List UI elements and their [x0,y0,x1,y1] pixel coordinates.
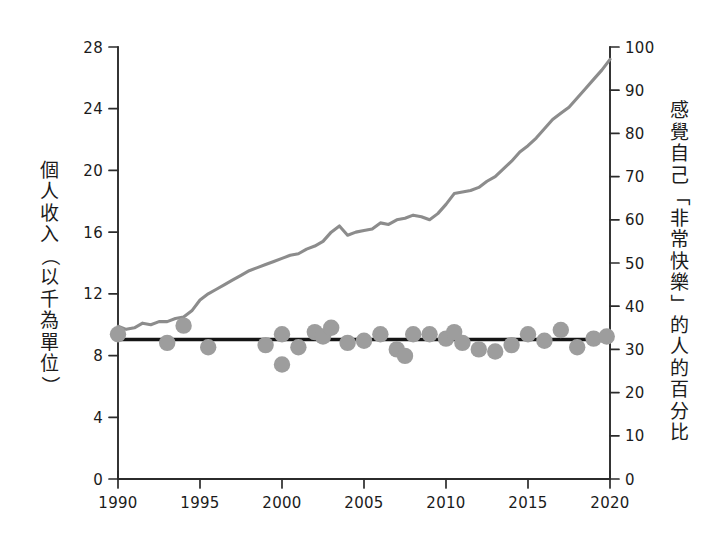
left-tick-label: 8 [93,347,103,365]
x-tick-label: 2005 [344,494,383,512]
happiness-data-point [290,339,306,355]
axis-title-char: 的 [670,315,689,336]
happiness-data-point [159,335,175,351]
right-tick-label: 20 [625,384,645,402]
axis-title-char: 「 [670,186,689,207]
axis-title-char: 己 [670,165,689,186]
happiness-data-point [323,320,339,336]
axis-title-char: 」 [670,293,689,314]
axis-title-char: 分 [670,401,689,422]
happiness-data-point [553,322,569,338]
axis-title-char: 位 [40,353,59,374]
plot-area [110,59,615,372]
axis-title-char: 單 [40,332,59,353]
axis-title-char: 以 [40,267,59,288]
happiness-data-point [200,339,216,355]
right-tick-label: 90 [625,82,645,100]
right-tick-label: 0 [625,471,635,489]
axis-title-char: 千 [40,289,59,310]
happiness-data-point [257,337,273,353]
right-axis-tick-labels: 0102030405060708090100 [625,39,655,489]
right-axis-title: 感覺自己「非常快樂」的人的百分比 [664,52,694,492]
happiness-data-point [487,343,503,359]
x-axis-group: 1990199520002005201020152020 [98,471,629,512]
axis-title-char: （ [40,246,59,267]
happiness-scatter-series [110,317,615,372]
axis-title-char: 自 [670,143,689,164]
left-tick-label: 24 [83,100,103,118]
axis-title-char: 的 [670,358,689,379]
left-tick-label: 12 [83,285,103,303]
x-tick-label: 2020 [590,494,629,512]
happiness-data-point [599,328,615,344]
happiness-data-point [503,337,519,353]
axis-title-char: 個 [40,160,59,181]
axis-title-char: 覺 [670,122,689,143]
right-tick-label: 40 [625,298,645,316]
right-tick-label: 70 [625,168,645,186]
right-tick-label: 80 [625,125,645,143]
x-tick-label: 1990 [98,494,137,512]
axis-title-char: 快 [670,251,689,272]
happiness-data-point [421,326,437,342]
axis-title-char: 為 [40,310,59,331]
left-tick-label: 4 [93,409,103,427]
right-tick-label: 50 [625,255,645,273]
right-tick-label: 100 [625,39,655,57]
axis-title-char: 入 [40,224,59,245]
happiness-data-point [569,339,585,355]
happiness-data-point [471,341,487,357]
right-axis-group: 0102030405060708090100 [610,39,655,489]
happiness-data-point [536,333,552,349]
axis-title-char: 樂 [670,272,689,293]
income-line-series [118,59,610,329]
right-tick-label: 10 [625,427,645,445]
happiness-data-point [339,335,355,351]
left-tick-label: 0 [93,471,103,489]
happiness-data-point [397,348,413,364]
chart-container: 0481216202428 0102030405060708090100 199… [0,0,716,541]
x-tick-label: 2010 [426,494,465,512]
axis-title-char: 比 [670,422,689,443]
left-tick-label: 20 [83,162,103,180]
axis-title-char: 百 [670,379,689,400]
axis-title-char: 收 [40,203,59,224]
axis-title-char: 人 [670,336,689,357]
x-tick-label: 2015 [508,494,547,512]
left-tick-label: 28 [83,39,103,57]
happiness-data-point [110,326,126,342]
happiness-data-point [405,326,421,342]
x-tick-label: 1995 [180,494,219,512]
axis-title-char: ） [40,375,59,396]
left-axis-group: 0481216202428 [83,39,118,489]
left-tick-label: 16 [83,224,103,242]
x-tick-label: 2000 [262,494,301,512]
happiness-data-point [454,335,470,351]
happiness-data-point [372,326,388,342]
x-axis-tick-labels: 1990199520002005201020152020 [98,494,629,512]
right-axis-ticks [610,47,619,479]
happiness-data-point [356,333,372,349]
axis-title-char: 常 [670,229,689,250]
right-tick-label: 60 [625,211,645,229]
right-tick-label: 30 [625,341,645,359]
axis-title-char: 非 [670,208,689,229]
happiness-data-point [175,317,191,333]
happiness-data-point [274,326,290,342]
axis-title-char: 感 [670,100,689,121]
left-axis-tick-labels: 0481216202428 [83,39,103,489]
happiness-data-point [274,356,290,372]
axis-title-char: 人 [40,181,59,202]
happiness-data-point [520,326,536,342]
left-axis-title: 個人收入（以千為單位） [34,128,64,428]
chart-canvas: 0481216202428 0102030405060708090100 199… [0,0,716,541]
left-axis-ticks [109,47,118,479]
